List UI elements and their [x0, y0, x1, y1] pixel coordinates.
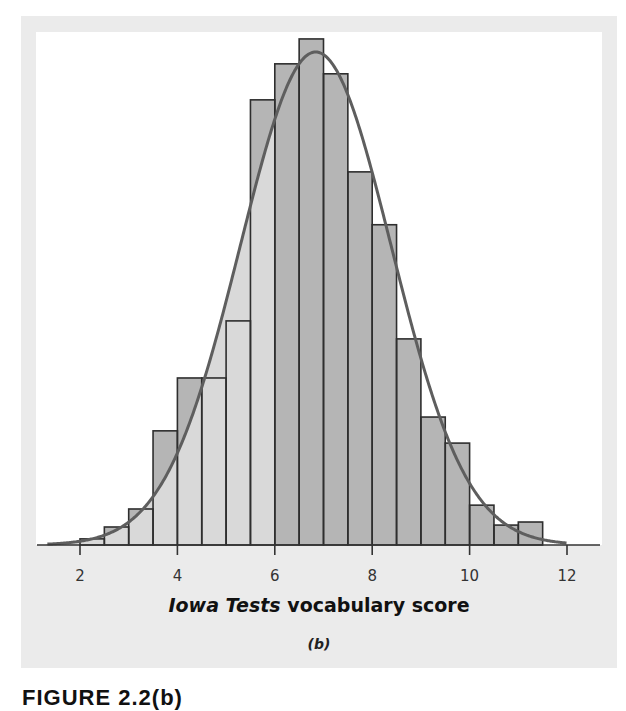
x-tick-label: 12 [557, 567, 576, 585]
x-tick-label: 4 [173, 567, 183, 585]
x-tick-label: 8 [367, 567, 377, 585]
x-tick-label: 10 [460, 567, 479, 585]
histogram-bar [421, 417, 445, 545]
x-axis-ticks: 24681012 [75, 545, 576, 585]
panel-label: (b) [21, 636, 617, 652]
histogram-bar [299, 39, 323, 545]
x-axis-label-rest: vocabulary score [281, 594, 470, 616]
x-axis-label-italic: Iowa Tests [168, 594, 280, 616]
histogram-bar [324, 74, 348, 545]
x-tick-label: 6 [270, 567, 280, 585]
histogram-bar [348, 172, 372, 545]
histogram-bar [372, 225, 396, 545]
x-axis-label: Iowa Tests vocabulary score [21, 594, 617, 616]
histogram-bar [275, 64, 299, 545]
histogram-bar [397, 339, 421, 545]
x-tick-label: 2 [75, 567, 85, 585]
figure-caption: FIGURE 2.2(b) [22, 685, 183, 711]
